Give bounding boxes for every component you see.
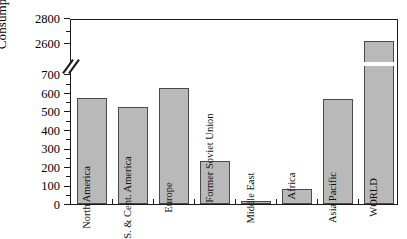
bar-label: Europe — [163, 182, 174, 212]
bar-label: WORLD — [368, 178, 379, 217]
bar: Europe — [159, 88, 189, 204]
x-axis-tick — [276, 199, 277, 205]
bar: Africa — [282, 189, 312, 204]
bar-axis-break — [363, 62, 395, 66]
x-axis-tick — [194, 199, 195, 205]
x-axis-tick — [235, 199, 236, 205]
x-axis-tick — [317, 199, 318, 205]
x-axis-tick — [153, 199, 154, 205]
y-axis-tick-label: 100 — [41, 180, 60, 193]
y-axis-tick-label: 600 — [41, 87, 60, 100]
y-axis: 010020030040050060070026002800 — [0, 0, 70, 239]
y-axis-tick-label: 500 — [41, 106, 60, 119]
bar-label: Asia Pacific — [327, 171, 338, 222]
y-axis-tick-label: 300 — [41, 143, 60, 156]
bar: Middle East — [241, 201, 271, 204]
bar-label: Middle East — [245, 173, 256, 224]
y-axis-tick-label: 700 — [41, 69, 60, 82]
y-axis-tick-label: 0 — [54, 199, 60, 212]
plot-area: North AmericaS. & Cent. AmericaEuropeFor… — [70, 19, 398, 205]
bar: Asia Pacific — [323, 99, 353, 204]
bar: S. & Cent. America — [118, 107, 148, 204]
axis-break-icon — [62, 57, 80, 77]
bar-label: S. & Cent. America — [122, 156, 133, 239]
y-axis-tick-label: 2600 — [35, 38, 60, 51]
bar: WORLD — [364, 41, 394, 205]
bar-label: North America — [81, 166, 92, 229]
y-axis-tick-label: 2800 — [35, 13, 60, 26]
x-axis-tick — [112, 199, 113, 205]
bar-label: Former Soviet Union — [204, 113, 215, 202]
y-axis-tick-label: 400 — [41, 124, 60, 137]
bar: Former Soviet Union — [200, 161, 230, 204]
y-axis-tick-label: 200 — [41, 162, 60, 175]
bar: North America — [77, 98, 107, 204]
x-axis-tick — [358, 199, 359, 205]
bar-chart: Consumption (TWh) 0100200300400500600700… — [0, 0, 407, 239]
bar-label: Africa — [286, 173, 297, 200]
